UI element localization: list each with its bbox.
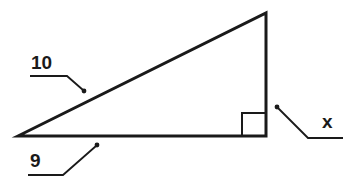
leader-line <box>278 108 343 138</box>
triangle-outline <box>18 13 266 136</box>
hypotenuse-label-leader <box>30 76 86 93</box>
leader-dot <box>82 89 87 94</box>
vertical-leg-label-leader <box>275 105 343 138</box>
leader-dot <box>95 143 100 148</box>
geometry-figure: 10 9 x <box>0 0 357 185</box>
hypotenuse-label: 10 <box>31 52 52 73</box>
leader-line <box>30 76 83 90</box>
leader-dot <box>275 105 280 110</box>
vertical-leg-label: x <box>322 111 333 132</box>
base-label: 9 <box>30 150 41 171</box>
right-triangle-svg: 10 9 x <box>0 0 357 185</box>
right-angle-marker <box>242 113 266 136</box>
